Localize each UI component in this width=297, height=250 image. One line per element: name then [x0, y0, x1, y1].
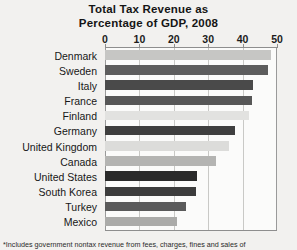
- bar-italy: [105, 80, 253, 90]
- bar-france: [105, 96, 252, 106]
- category-label-france: France: [64, 95, 97, 107]
- bar-denmark: [105, 50, 271, 60]
- bar-row: [105, 78, 277, 93]
- bar-row: [105, 215, 277, 230]
- x-axis-tick-labels: 01020304050: [105, 33, 277, 47]
- category-label-turkey: Turkey: [65, 201, 97, 213]
- bar-germany: [105, 126, 235, 136]
- bar-canada: [105, 156, 216, 166]
- category-label-mexico: Mexico: [64, 216, 97, 228]
- category-label-united-kingdom: United Kingdom: [22, 141, 97, 153]
- bar-mexico: [105, 217, 177, 227]
- bar-row: [105, 185, 277, 200]
- category-label-germany: Germany: [54, 125, 97, 137]
- chart-title: Total Tax Revenue as Percentage of GDP, …: [0, 2, 297, 30]
- bar-row: [105, 124, 277, 139]
- bar-turkey: [105, 202, 186, 212]
- category-label-denmark: Denmark: [54, 50, 97, 62]
- bar-row: [105, 94, 277, 109]
- x-tickmark-50: [277, 44, 278, 48]
- plot-area: [105, 48, 277, 230]
- bar-sweden: [105, 65, 268, 75]
- bar-row: [105, 63, 277, 78]
- bar-united-kingdom: [105, 141, 229, 151]
- category-label-canada: Canada: [60, 156, 97, 168]
- bar-row: [105, 139, 277, 154]
- category-label-sweden: Sweden: [59, 65, 97, 77]
- chart-title-line-1: Total Tax Revenue as: [0, 2, 297, 16]
- category-label-italy: Italy: [78, 80, 97, 92]
- x-axis-bottom-rule: [105, 230, 277, 231]
- bar-row: [105, 154, 277, 169]
- bar-south-korea: [105, 187, 196, 197]
- bar-united-states: [105, 171, 197, 181]
- bar-row: [105, 109, 277, 124]
- category-label-united-states: United States: [34, 171, 97, 183]
- bar-row: [105, 200, 277, 215]
- category-label-finland: Finland: [63, 110, 97, 122]
- category-label-south-korea: South Korea: [39, 186, 97, 198]
- tax-revenue-bar-chart: Total Tax Revenue as Percentage of GDP, …: [0, 0, 297, 250]
- category-axis-labels: DenmarkSwedenItalyFranceFinlandGermanyUn…: [0, 48, 101, 230]
- bar-row: [105, 48, 277, 63]
- chart-footnote: *Includes government nontax revenue from…: [3, 240, 294, 249]
- chart-title-line-2: Percentage of GDP, 2008: [0, 16, 297, 30]
- bar-finland: [105, 111, 249, 121]
- bar-row: [105, 169, 277, 184]
